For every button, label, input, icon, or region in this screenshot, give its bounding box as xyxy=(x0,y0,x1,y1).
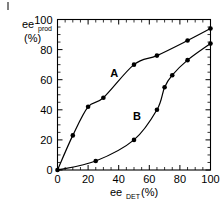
data-point-b xyxy=(185,58,190,63)
y-tick-label: 40 xyxy=(40,104,52,116)
data-markers xyxy=(55,26,213,172)
x-tick-label: 100 xyxy=(201,173,219,185)
data-point-b xyxy=(93,159,98,164)
series-annotations: AB xyxy=(110,67,141,123)
data-point-b xyxy=(155,108,160,113)
x-axis-title-subscript: DET xyxy=(126,193,141,200)
scatter-plot: 020406080100 020406080100 AB ee prod (%)… xyxy=(0,0,223,203)
x-axis-title-unit: (%) xyxy=(141,186,158,198)
chart-figure: 020406080100 020406080100 AB ee prod (%)… xyxy=(0,0,223,203)
x-tick-label: 80 xyxy=(174,173,186,185)
y-axis-title-unit: (%) xyxy=(24,32,41,44)
data-point-b xyxy=(162,85,167,90)
data-point-b xyxy=(170,73,175,78)
data-point-origin xyxy=(55,168,60,173)
data-point-a xyxy=(208,26,213,31)
x-axis-tick-labels: 020406080100 xyxy=(54,173,219,185)
y-tick-label: 20 xyxy=(40,134,52,146)
data-point-a xyxy=(71,133,76,138)
x-tick-label: 60 xyxy=(143,173,155,185)
data-point-b xyxy=(208,41,213,46)
y-tick-label: 100 xyxy=(34,14,52,26)
data-point-a xyxy=(86,104,91,109)
data-point-a xyxy=(185,38,190,43)
x-tick-label: 0 xyxy=(54,173,60,185)
series-label-b: B xyxy=(133,110,141,122)
x-axis-title-main: ee xyxy=(110,186,122,198)
y-axis-title-main: ee xyxy=(22,18,34,30)
y-tick-label: 80 xyxy=(40,44,52,56)
data-point-a xyxy=(155,53,160,58)
curve-a xyxy=(58,29,211,170)
data-point-b xyxy=(132,138,137,143)
data-point-a xyxy=(132,62,137,67)
data-curves xyxy=(58,29,211,170)
x-tick-label: 40 xyxy=(113,173,125,185)
x-tick-label: 20 xyxy=(82,173,94,185)
y-tick-label: 60 xyxy=(40,74,52,86)
y-tick-label: 0 xyxy=(46,164,52,176)
data-point-a xyxy=(101,95,106,100)
series-label-a: A xyxy=(110,67,118,79)
